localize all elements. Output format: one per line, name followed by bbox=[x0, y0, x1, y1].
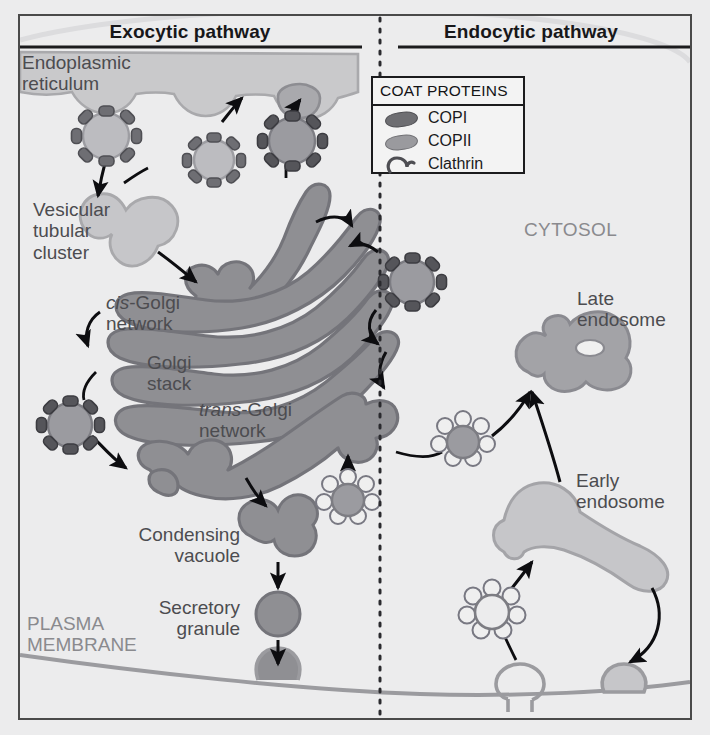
copii-bean-icon bbox=[382, 131, 422, 151]
legend-label-clathrin: Clathrin bbox=[428, 155, 483, 173]
label-early-endosome: Early endosome bbox=[576, 470, 665, 513]
legend-label-copi: COPI bbox=[428, 109, 467, 127]
legend-item-copi: COPI bbox=[373, 106, 523, 129]
clathrin-hook-icon bbox=[382, 154, 422, 174]
legend-item-copii: COPII bbox=[373, 129, 523, 152]
copi-vesicle-er bbox=[258, 111, 328, 171]
label-cis-golgi-network: cis-Golgi network bbox=[106, 292, 180, 335]
figure-canvas: Exocytic pathway Endocytic pathway COAT … bbox=[0, 0, 710, 735]
label-plasma-membrane: PLASMA MEMBRANE bbox=[27, 613, 137, 656]
label-late-endosome: Late endosome bbox=[577, 288, 666, 331]
legend-label-copii: COPII bbox=[428, 132, 472, 150]
label-condensing-vacuole: Condensing vacuole bbox=[134, 524, 240, 567]
copii-vesicle-2 bbox=[183, 133, 246, 187]
header-exocytic-pathway: Exocytic pathway bbox=[20, 17, 360, 47]
legend-coat-proteins: COAT PROTEINS COPI COPII Clathrin bbox=[371, 76, 525, 174]
label-golgi-stack: Golgi stack bbox=[147, 352, 191, 395]
label-secretory-granule: Secretory granule bbox=[150, 597, 240, 640]
legend-title: COAT PROTEINS bbox=[373, 78, 523, 106]
copi-bean-icon bbox=[382, 108, 422, 128]
label-vesicular-tubular-cluster: Vesicular tubular cluster bbox=[33, 199, 110, 263]
label-endoplasmic-reticulum: Endoplasmic reticulum bbox=[22, 52, 131, 95]
legend-item-clathrin: Clathrin bbox=[373, 152, 523, 175]
copii-vesicle-1 bbox=[72, 106, 142, 166]
late-endosome-lumen-vesicle bbox=[576, 340, 604, 356]
copi-vesicle-retrograde-right bbox=[379, 253, 447, 311]
copi-vesicle-retrograde-left bbox=[37, 396, 105, 454]
secretory-granule-shape bbox=[256, 592, 300, 636]
header-endocytic-pathway: Endocytic pathway bbox=[372, 17, 690, 47]
label-trans-golgi-network: trans-Golgi network bbox=[199, 399, 292, 442]
label-cytosol: CYTOSOL bbox=[524, 219, 617, 240]
